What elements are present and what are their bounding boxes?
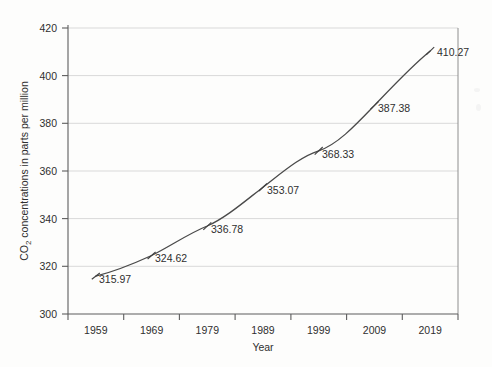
data-point-marker-2019 [426, 47, 434, 55]
x-tick-label-2019: 2019 [419, 324, 443, 336]
data-point-labels: 315.97 324.62 336.78 353.07 368.33 387.3… [99, 46, 469, 285]
y-axis-title: CO2 concentrations in parts per million [18, 81, 33, 261]
x-tick-label-1989: 1989 [251, 324, 275, 336]
data-point-label-1959: 315.97 [99, 273, 131, 285]
y-tick-marks [62, 28, 68, 314]
y-tick-label-340: 340 [39, 213, 57, 225]
data-point-markers [92, 47, 434, 279]
x-tick-label-1999: 1999 [307, 324, 331, 336]
co2-concentration-line-chart: 420 400 380 360 340 320 300 1959 1969 19… [0, 0, 492, 367]
x-axis-title: Year [252, 341, 274, 353]
y-axis-title-suffix: concentrations in parts per million [18, 81, 30, 240]
y-tick-label-360: 360 [39, 165, 57, 177]
y-tick-label-420: 420 [39, 22, 57, 34]
data-point-label-1989: 353.07 [267, 184, 299, 196]
scan-artifact-speck-2 [476, 104, 481, 111]
x-tick-labels: 1959 1969 1979 1989 1999 2009 2019 [84, 324, 442, 336]
data-point-label-2019: 410.27 [437, 46, 469, 58]
x-tick-label-1969: 1969 [140, 324, 164, 336]
data-point-marker-1989 [259, 184, 267, 192]
svg-text:CO2 concentrations in parts pe: CO2 concentrations in parts per million [18, 81, 33, 261]
scan-artifact-speck-1 [474, 88, 480, 92]
y-gridlines [68, 28, 458, 266]
y-tick-labels: 420 400 380 360 340 320 300 [39, 22, 57, 320]
y-tick-label-300: 300 [39, 308, 57, 320]
data-point-label-1979: 336.78 [211, 223, 243, 235]
x-tick-label-2009: 2009 [363, 324, 387, 336]
x-tick-label-1959: 1959 [84, 324, 108, 336]
co2-series-line [96, 51, 430, 276]
axes [68, 25, 458, 314]
data-point-label-2009: 387.38 [378, 102, 410, 114]
data-point-label-1969: 324.62 [155, 252, 187, 264]
x-tick-label-1979: 1979 [196, 324, 220, 336]
y-axis-title-prefix: CO [18, 245, 30, 261]
y-tick-label-400: 400 [39, 70, 57, 82]
chart-canvas: 420 400 380 360 340 320 300 1959 1969 19… [0, 0, 492, 367]
data-point-label-1999: 368.33 [322, 148, 354, 160]
y-tick-label-380: 380 [39, 117, 57, 129]
y-tick-label-320: 320 [39, 260, 57, 272]
x-tick-marks [68, 314, 458, 320]
